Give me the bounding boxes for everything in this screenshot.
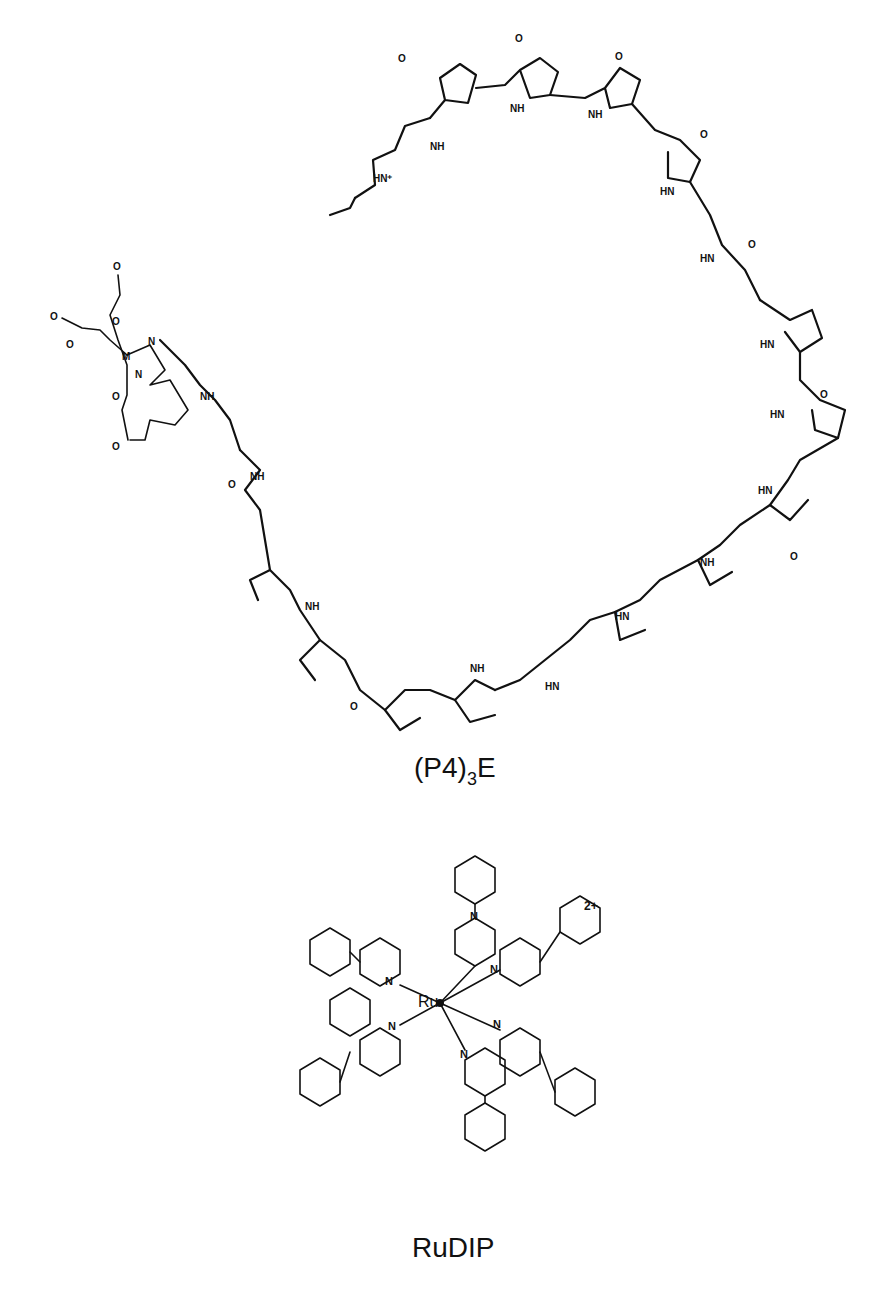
svg-text:HN: HN <box>660 186 674 197</box>
atom-labels: HN⁺ NH NH NH HN HN HN HN HN NH HN HN NH … <box>200 33 828 712</box>
svg-text:O: O <box>700 129 708 140</box>
svg-text:NH: NH <box>588 109 602 120</box>
svg-text:O: O <box>112 316 120 327</box>
molecule-caption-polyamide: (P4)3E <box>414 752 496 790</box>
svg-text:N: N <box>388 1020 396 1032</box>
svg-text:O: O <box>228 479 236 490</box>
svg-text:HN: HN <box>760 339 774 350</box>
polyamide-structure: HN⁺ NH NH NH HN HN HN HN HN NH HN HN NH … <box>0 0 885 1302</box>
svg-text:HN: HN <box>545 681 559 692</box>
svg-text:NH: NH <box>700 557 714 568</box>
svg-text:HN: HN <box>615 611 629 622</box>
svg-text:O: O <box>113 261 121 272</box>
svg-text:HN: HN <box>700 253 714 264</box>
svg-text:N: N <box>148 336 155 347</box>
edta-metal-complex: O O O O M N N O O <box>50 261 188 452</box>
svg-text:NH: NH <box>470 663 484 674</box>
svg-text:O: O <box>615 51 623 62</box>
svg-text:O: O <box>50 311 58 322</box>
svg-text:O: O <box>820 389 828 400</box>
svg-text:NH: NH <box>305 601 319 612</box>
svg-text:NH: NH <box>200 391 214 402</box>
svg-text:NH: NH <box>510 103 524 114</box>
svg-text:NH: NH <box>250 471 264 482</box>
svg-text:O: O <box>66 339 74 350</box>
svg-text:O: O <box>748 239 756 250</box>
svg-text:O: O <box>112 391 120 402</box>
rudip-structure: Ru N N N N N N 2+ <box>300 856 600 1151</box>
svg-text:O: O <box>790 551 798 562</box>
svg-text:O: O <box>350 701 358 712</box>
svg-text:O: O <box>112 441 120 452</box>
svg-text:HN⁺: HN⁺ <box>373 173 392 184</box>
pyrrole-chain <box>160 58 845 730</box>
molecule-caption-rudip: RuDIP <box>412 1232 494 1264</box>
svg-text:M: M <box>122 351 130 362</box>
svg-text:NH: NH <box>430 141 444 152</box>
svg-text:HN: HN <box>770 409 784 420</box>
svg-text:HN: HN <box>758 485 772 496</box>
svg-text:O: O <box>398 53 406 64</box>
svg-text:O: O <box>515 33 523 44</box>
svg-text:N: N <box>135 369 142 380</box>
